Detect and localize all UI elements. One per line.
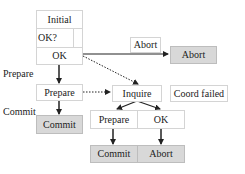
node-coord-failed: Coord failed [170,85,228,102]
arrow-inquire-ok2 [137,101,160,109]
edge-label-prepare: Prepare [3,69,34,79]
node-abort-2: Abort [137,145,185,163]
node-inquire: Inquire [112,85,162,102]
node-ok-2: OK [137,110,185,129]
node-ok: OK [36,47,83,65]
node-prepare: Prepare [36,84,83,101]
node-ok-question: OK? [36,28,74,48]
node-prepare-2: Prepare [90,110,138,129]
node-commit: Commit [36,115,83,134]
arrow-inquire-prepare2 [117,101,137,109]
node-abort: Abort [170,46,217,64]
node-ok-question-side [73,28,83,48]
node-commit-2: Commit [90,145,138,163]
edge-label-commit: Commit [3,107,36,117]
node-abort-label: Abort [130,37,161,53]
arrow-ok-inquire-dotted [83,56,138,84]
node-initial: Initial [36,10,83,29]
